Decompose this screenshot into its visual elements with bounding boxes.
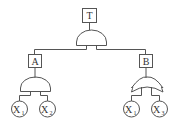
svg-text:T: T: [86, 10, 92, 21]
and-gate-top: [77, 30, 107, 46]
svg-text:3: 3: [162, 110, 165, 116]
svg-text:1: 1: [134, 110, 137, 116]
basic-event-X1-right: X 1: [124, 101, 140, 117]
fault-tree-diagram: T A B X 1 X 2 X 1 X 3: [0, 0, 178, 127]
event-A: A: [29, 55, 42, 68]
basic-event-X1-left: X 1: [12, 101, 28, 117]
and-gate-A: [21, 77, 51, 92]
svg-text:1: 1: [22, 110, 25, 116]
svg-text:X: X: [41, 104, 49, 115]
svg-text:X: X: [153, 104, 161, 115]
svg-text:X: X: [125, 104, 133, 115]
svg-text:2: 2: [50, 110, 53, 116]
or-gate-B: [132, 77, 164, 92]
basic-event-X2: X 2: [40, 101, 56, 117]
svg-text:X: X: [13, 104, 21, 115]
basic-event-X3: X 3: [152, 101, 168, 117]
svg-text:B: B: [143, 56, 150, 67]
event-B: B: [140, 55, 153, 68]
top-event-T: T: [83, 9, 97, 23]
svg-text:A: A: [31, 56, 39, 67]
